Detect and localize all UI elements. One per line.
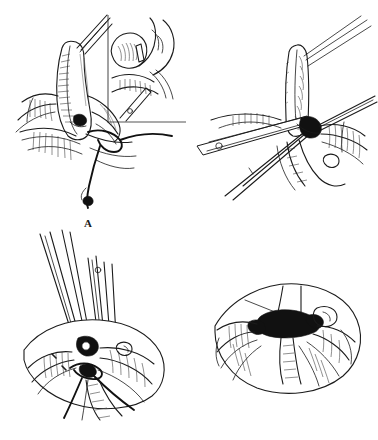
panel-b: B bbox=[189, 0, 378, 220]
panel-b-suture-strands bbox=[304, 16, 371, 66]
panel-a-artwork bbox=[0, 0, 189, 220]
panel-b-artwork bbox=[189, 0, 378, 220]
panel-a-inset-frame bbox=[108, 15, 186, 122]
panel-a: A bbox=[0, 0, 189, 220]
panel-a-instrument-tips[interactable] bbox=[77, 15, 112, 54]
panel-c: C bbox=[0, 220, 189, 440]
panel-a-inset-content bbox=[111, 18, 174, 121]
mesentery-hatching-a bbox=[30, 99, 52, 121]
figure-root: A bbox=[0, 0, 378, 440]
tissue-bed-hatching-a bbox=[33, 132, 71, 160]
inset-hatching bbox=[118, 43, 137, 61]
panel-d-tissue-dome bbox=[215, 284, 361, 394]
panel-c-tissue-dome bbox=[24, 320, 164, 409]
panel-d: D bbox=[189, 220, 378, 440]
panel-a-mesentery bbox=[16, 94, 58, 132]
panel-b-upper-instrument[interactable] bbox=[313, 96, 377, 133]
panel-b-tissue-fan bbox=[319, 122, 367, 164]
panel-c-artwork bbox=[0, 220, 189, 440]
panel-d-artwork bbox=[189, 220, 378, 440]
